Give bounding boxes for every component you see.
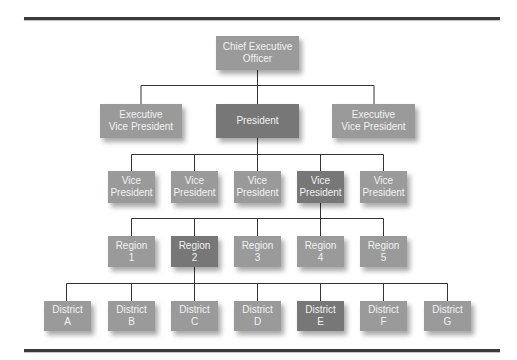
node-region-2: Region 2 [171,236,218,267]
node-district-e: District E [297,301,344,331]
node-district-b: District B [108,301,155,331]
node-region-3: Region 3 [234,236,281,267]
node-vp-3: Vice President [234,171,281,203]
node-president: President [216,104,299,138]
node-district-f: District F [360,301,407,331]
node-region-5: Region 5 [360,236,407,267]
node-region-4: Region 4 [297,236,344,267]
node-vp-1: Vice President [108,171,155,203]
node-vp-4: Vice President [297,171,344,203]
node-district-d: District D [234,301,281,331]
node-vp-5: Vice President [360,171,407,203]
node-district-g: District G [424,301,471,331]
node-district-a: District A [44,301,91,331]
node-evp-right: Executive Vice President [332,104,415,138]
node-evp-left: Executive Vice President [100,104,182,138]
node-region-1: Region 1 [108,236,155,267]
node-ceo: Chief Executive Officer [216,36,299,70]
node-district-c: District C [171,301,218,331]
node-vp-2: Vice President [171,171,218,203]
